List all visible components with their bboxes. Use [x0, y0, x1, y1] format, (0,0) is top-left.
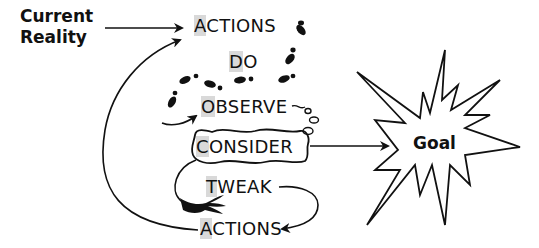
step-initial: T: [206, 176, 217, 197]
step-initial: A: [200, 218, 212, 239]
step-initial: O: [201, 96, 215, 117]
step-do: DO: [229, 53, 258, 71]
step-actions-top: ACTIONS: [194, 17, 276, 35]
step-rest: WEAK: [217, 176, 272, 197]
start-label-line2: Reality: [20, 27, 93, 48]
step-initial: D: [229, 51, 243, 72]
observe-arrow-icon: [162, 116, 196, 125]
start-label-line1: Current: [20, 6, 93, 27]
step-consider: CONSIDER: [196, 138, 293, 156]
goal-label: Goal: [413, 133, 456, 153]
consider-to-tweak-line: [175, 160, 205, 209]
step-rest: BSERVE: [215, 96, 287, 117]
step-rest: O: [243, 51, 257, 72]
step-tweak: TWEAK: [206, 178, 272, 196]
step-rest: ONSIDER: [209, 136, 293, 157]
step-initial: A: [194, 15, 206, 36]
step-rest: CTIONS: [212, 218, 282, 239]
thought-bubble-icon: [292, 106, 319, 135]
hand-icon: [180, 195, 226, 214]
step-actions-bottom: ACTIONS: [200, 220, 282, 238]
tweak-arrow-icon: [279, 187, 318, 229]
step-rest: CTIONS: [206, 15, 276, 36]
step-initial: C: [196, 136, 209, 157]
step-observe: OBSERVE: [201, 98, 287, 116]
current-reality-label: Current Reality: [20, 6, 93, 48]
